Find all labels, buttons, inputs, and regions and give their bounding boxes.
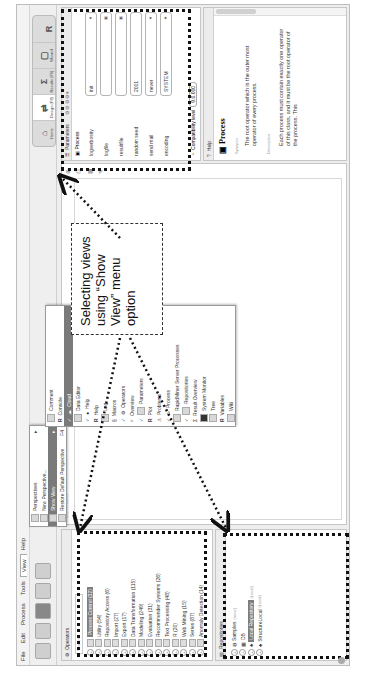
- file-browse-icon: ▣: [103, 16, 108, 20]
- zoom-icon[interactable]: ⊕: [64, 166, 71, 174]
- parameters-icon: ☰: [64, 153, 70, 157]
- run-icon[interactable]: [35, 563, 51, 579]
- tree-item[interactable]: +Anomaly Detection (14): [197, 573, 206, 656]
- menu-item-new-perspective[interactable]: New Perspective...: [39, 426, 48, 526]
- view-item-variables[interactable]: RVariables: [217, 306, 226, 426]
- tree-icon: [209, 414, 217, 422]
- send-mail-select[interactable]: never▼: [145, 12, 157, 96]
- menu-view[interactable]: View: [20, 554, 27, 577]
- chevron-down-icon: ▼: [148, 16, 153, 20]
- tree-item[interactable]: +Text Processing (48): [163, 573, 172, 656]
- view-item-comment[interactable]: Comment: [46, 306, 55, 426]
- random-seed-input[interactable]: 2001: [130, 12, 142, 96]
- wire-icon[interactable]: ✎: [97, 166, 104, 174]
- r-icon: R: [93, 418, 99, 422]
- db-icon: ▦: [240, 642, 246, 647]
- synopsis-text: The root operator which is the outer mos…: [244, 26, 258, 146]
- tree-item[interactable]: +Process Control (32): [86, 573, 95, 656]
- view-item-system-monitor[interactable]: System Monitor: [199, 306, 208, 426]
- menu-item-show-view[interactable]: Show View▸: [48, 426, 57, 526]
- encoding-select[interactable]: SYSTEM▼: [160, 12, 172, 96]
- tree-item[interactable]: +◍Samples(none): [230, 586, 239, 656]
- undo-icon[interactable]: [35, 583, 51, 599]
- view-item-wiki[interactable]: Wiki: [226, 306, 235, 426]
- logfile-input[interactable]: ▣: [100, 12, 112, 96]
- process-icon: ▣: [218, 146, 227, 154]
- param-toolbar-icons[interactable]: ⚙ ⚙ ⚙ ⚙ ▾: [64, 91, 70, 116]
- parameters-tab[interactable]: ☰ Parameters ⚙ ⚙ ⚙ ⚙ ▾: [62, 8, 72, 160]
- rotated-stage: File Edit Process Tools View Help ⌂Home …: [0, 0, 366, 678]
- new-process-icon[interactable]: [35, 643, 51, 659]
- help-icon: ●: [84, 412, 90, 415]
- chevron-down-icon: ▼: [163, 16, 168, 20]
- menu-item-perspectives[interactable]: Perspectives▸: [30, 426, 39, 526]
- tree-item[interactable]: +Utility (54): [95, 573, 104, 656]
- operator-search-input[interactable]: Search: [75, 594, 83, 654]
- tree-item[interactable]: +Data Transformation (115): [129, 573, 138, 656]
- scrollbar-thumb[interactable]: [216, 9, 256, 14]
- tree-item[interactable]: +♣Local Repository(Local): [247, 586, 256, 656]
- view-item-result-overview[interactable]: ΣResult Overview: [190, 306, 199, 426]
- tree-item[interactable]: +Evaluation (31): [146, 573, 155, 656]
- perspective-results[interactable]: ΣResults (F9): [33, 68, 55, 94]
- perspective-home[interactable]: ⌂Home: [33, 120, 55, 146]
- logverbosity-select[interactable]: init▼: [85, 12, 97, 96]
- r-icon: R: [219, 418, 225, 422]
- menu-bar: File Edit Process Tools View Help: [17, 5, 30, 665]
- compat-icon: ◔: [190, 153, 196, 156]
- view-item-console[interactable]: RConsole: [55, 306, 64, 426]
- tree-item[interactable]: +Web Mining (15): [180, 573, 189, 656]
- tree-item[interactable]: +R (20): [171, 573, 180, 656]
- tree-item[interactable]: +Recommender Systems (26): [154, 573, 163, 656]
- menu-help[interactable]: Help: [20, 534, 26, 554]
- annotation-callout: Selecting views using “Show View” menu o…: [71, 223, 163, 335]
- menu-process[interactable]: Process: [20, 599, 26, 629]
- results-icon: Σ: [39, 79, 49, 84]
- folder-icon: ♣: [257, 644, 263, 647]
- repositories-panel: ▤ Repositories +◍Samples(none) +▦DB +♣Lo…: [215, 529, 347, 661]
- repository-icon: ▤: [218, 652, 224, 657]
- grid-icon[interactable]: ▦: [86, 166, 93, 174]
- magnifier-icon: ⌕: [128, 419, 135, 422]
- save-icon[interactable]: [35, 603, 51, 619]
- macro-icon: §: [111, 419, 117, 422]
- operators-tab[interactable]: ⚙ Operators: [62, 530, 72, 660]
- view-item-process[interactable]: ✓∿Process: [163, 306, 172, 426]
- tree-item[interactable]: +▦DB: [239, 586, 248, 656]
- tree-item[interactable]: +♣StructureLocal(Local): [256, 586, 265, 656]
- resultfile-input[interactable]: ▣: [115, 12, 127, 96]
- tree-item[interactable]: +Import (27): [112, 573, 121, 656]
- process-icon: ∿: [165, 411, 171, 415]
- help-scrollbar[interactable]: [214, 8, 346, 16]
- samples-icon: ◍: [231, 643, 237, 647]
- print-icon[interactable]: ⎙: [75, 166, 82, 174]
- tree-item[interactable]: +Series (87): [188, 573, 197, 656]
- open-process-icon[interactable]: [35, 623, 51, 639]
- menu-tools[interactable]: Tools: [20, 577, 26, 599]
- help-tab[interactable]: ? Help: [204, 8, 214, 160]
- home-icon: ⌂: [39, 131, 49, 136]
- tree-item[interactable]: +Repository Access (6): [103, 573, 112, 656]
- menu-edit[interactable]: Edit: [20, 629, 26, 647]
- process-icon: ▣: [74, 151, 80, 156]
- param-encoding: encodingSYSTEM▼: [159, 12, 172, 156]
- tree-item[interactable]: +Modeling (249): [137, 573, 146, 656]
- perspective-wizard[interactable]: ▢Wizard: [33, 42, 55, 68]
- view-item-server-processes[interactable]: RapidMiner Server Processes: [172, 306, 181, 426]
- menu-file[interactable]: File: [20, 647, 26, 665]
- tree-item[interactable]: +Export (17): [120, 573, 129, 656]
- view-item-repositories[interactable]: ✓Repositories: [181, 306, 190, 426]
- process-side-toolbar: ⊕ ⎙ ▦ ✎: [64, 166, 144, 174]
- perspective-r[interactable]: R: [33, 16, 55, 42]
- menu-item-restore-default[interactable]: Restore Default PerspectiveF4: [57, 426, 66, 526]
- compat-level-select[interactable]: 9.0.000: [189, 82, 197, 107]
- folder-icon: ♣: [248, 644, 254, 647]
- wizard-icon: ▢: [39, 51, 49, 60]
- perspective-design[interactable]: ⇄Design (F8): [33, 94, 55, 120]
- view-item-tree[interactable]: Tree: [208, 306, 217, 426]
- wiki-icon: [227, 414, 235, 422]
- repositories-tab[interactable]: ▤ Repositories: [216, 530, 226, 660]
- view-menu-dropdown: Perspectives▸ New Perspective... Show Vi…: [29, 425, 67, 527]
- help-operator-title: ▣ Process: [218, 118, 227, 154]
- perspective-switcher: ⌂Home ⇄Design (F8) ΣResults (F9) ▢Wizard…: [32, 15, 56, 147]
